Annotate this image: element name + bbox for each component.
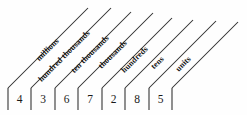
digit-millions: 4 bbox=[17, 93, 23, 105]
digit-hundred-thousands: 3 bbox=[40, 93, 46, 105]
place-label-tens: tens bbox=[149, 54, 166, 71]
digit-units: 5 bbox=[158, 93, 164, 105]
place-labels-group: millions hundred thousands ten thousands… bbox=[34, 28, 193, 83]
digit-thousands: 7 bbox=[87, 93, 93, 105]
digit-hundreds: 2 bbox=[111, 93, 117, 105]
digit-tens: 8 bbox=[134, 93, 140, 105]
place-value-chart-svg: 4 3 6 7 2 8 5 millions hundred thousands… bbox=[0, 0, 247, 115]
digit-ten-thousands: 6 bbox=[64, 93, 70, 105]
digits-group: 4 3 6 7 2 8 5 bbox=[17, 93, 164, 105]
place-value-diagram: 4 3 6 7 2 8 5 millions hundred thousands… bbox=[0, 0, 247, 115]
